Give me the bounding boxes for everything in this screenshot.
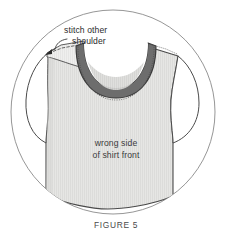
wrong-side-label-line1: wrong side — [94, 138, 138, 148]
figure-caption: FIGURE 5 — [94, 220, 138, 230]
wrong-side-label-line2: of shirt front — [93, 150, 140, 160]
figure-illustration: stitch other shoulder wrong side of shir… — [0, 0, 233, 247]
callout-label-line1: stitch other — [64, 25, 107, 35]
callout-label-line2: shoulder — [72, 36, 106, 46]
figure-container: stitch other shoulder wrong side of shir… — [0, 0, 233, 247]
